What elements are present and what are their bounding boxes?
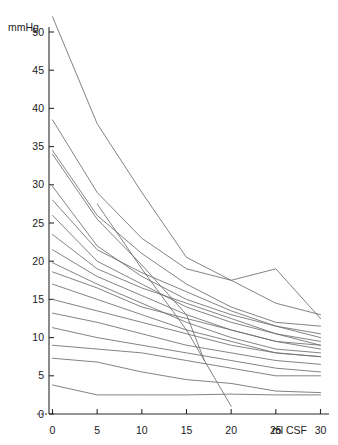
data-line — [53, 234, 321, 345]
y-axis-tick-labels: 05101520253035404550 — [32, 26, 44, 420]
x-axis-ticks — [53, 409, 321, 414]
x-tick-label: 30 — [315, 424, 327, 436]
y-axis-label: mmHg — [8, 21, 39, 33]
y-axis-ticks — [49, 32, 54, 414]
data-line — [53, 120, 321, 319]
x-tick-label: 5 — [94, 424, 100, 436]
y-axis-group: 05101520253035404550 mmHg — [8, 21, 54, 420]
data-curves — [53, 17, 321, 407]
data-line — [53, 154, 205, 360]
y-tick-label: 5 — [38, 369, 44, 381]
data-line — [53, 299, 321, 356]
y-tick-label: 15 — [32, 293, 44, 305]
chart-container: 05101520253035404550 mmHg 051015202530 m… — [0, 0, 338, 445]
y-tick-label: 35 — [32, 140, 44, 152]
x-tick-label: 10 — [136, 424, 148, 436]
y-tick-label: 25 — [32, 217, 44, 229]
x-tick-label: 0 — [50, 424, 56, 436]
y-tick-label: 30 — [32, 178, 44, 190]
data-line — [53, 385, 321, 395]
x-tick-label: 20 — [225, 424, 237, 436]
y-tick-label: 20 — [32, 255, 44, 267]
line-chart: 05101520253035404550 mmHg 051015202530 m… — [0, 0, 338, 445]
data-line — [53, 17, 321, 315]
data-line — [53, 263, 321, 353]
x-axis-unit-label: ml CSF — [272, 424, 307, 436]
x-tick-label: 15 — [181, 424, 193, 436]
x-axis-group: 051015202530 ml CSF — [37, 409, 329, 436]
data-line — [53, 313, 321, 364]
y-tick-label: 45 — [32, 64, 44, 76]
data-line — [53, 284, 321, 357]
y-tick-label: 40 — [32, 102, 44, 114]
y-tick-label: 10 — [32, 331, 44, 343]
